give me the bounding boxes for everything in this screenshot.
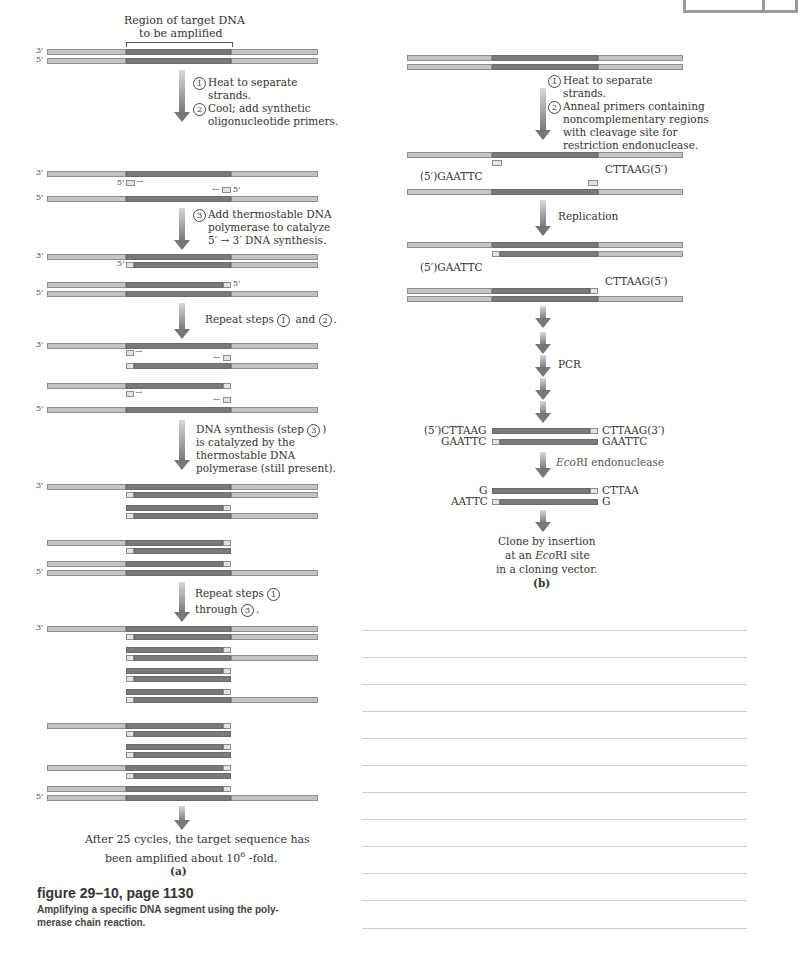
dna-target-region xyxy=(492,428,590,434)
enzyme-label: EcoRI endonuclease xyxy=(556,456,664,469)
dna-strand xyxy=(407,189,492,195)
dna-target-region xyxy=(126,196,231,202)
rep-left-label: (5′)GAATTC xyxy=(420,261,482,274)
result-text2: been amplified about 106 -fold. xyxy=(105,848,277,865)
dna-strand xyxy=(47,171,126,177)
step3-text: 3Add thermostable DNA xyxy=(193,208,332,222)
end-label-3prime: 3' xyxy=(36,340,43,349)
note-line[interactable] xyxy=(362,738,747,739)
dna-target-region xyxy=(134,634,231,640)
primer xyxy=(223,505,231,511)
step2-text: 2Cool; add synthetic xyxy=(193,102,311,116)
note-line[interactable] xyxy=(362,684,747,685)
step1-text: 1Heat to separate xyxy=(193,76,297,90)
note-line[interactable] xyxy=(362,765,747,766)
note-line[interactable] xyxy=(362,657,747,658)
dna-target-region xyxy=(126,570,231,576)
target-region-bracket xyxy=(126,42,233,47)
right-arrow-icon: → xyxy=(136,176,144,186)
left-arrow-icon: ← xyxy=(212,184,220,194)
b-step2-text2: noncomplementary regions xyxy=(563,113,709,126)
dna-strand xyxy=(598,152,683,158)
dna-strand xyxy=(598,55,683,61)
dna-target-region xyxy=(126,626,231,632)
dna-target-region xyxy=(134,697,231,703)
dna-strand xyxy=(47,49,126,55)
step2-text2: oligonucleotide primers. xyxy=(208,115,338,128)
note-line[interactable] xyxy=(362,928,747,929)
down-arrow-icon xyxy=(535,378,551,400)
result-line2: been amplified about 10 xyxy=(105,852,240,865)
dna-target-region xyxy=(492,296,598,302)
end-label-3prime: 3' xyxy=(36,46,43,55)
dna-target-region xyxy=(126,647,223,653)
down-arrow-icon xyxy=(174,303,190,339)
down-arrow-icon xyxy=(174,582,190,622)
end-label-5prime: 5' xyxy=(36,792,43,801)
down-arrow-icon xyxy=(174,208,190,250)
primer-right-label: CTTAAG(5′) xyxy=(605,163,667,176)
primer xyxy=(126,655,134,661)
dna-strand xyxy=(47,723,126,729)
dna-strand xyxy=(407,55,492,61)
dna-strand xyxy=(231,58,318,64)
down-arrow-icon xyxy=(535,306,551,328)
dna-strand xyxy=(47,282,126,288)
primer xyxy=(223,723,231,729)
dna-target-region xyxy=(126,58,231,64)
primer xyxy=(126,676,134,682)
dna-strand xyxy=(231,484,318,490)
dna-target-region xyxy=(134,262,231,268)
primer xyxy=(223,647,231,653)
note-line[interactable] xyxy=(362,630,747,631)
down-arrow-icon xyxy=(535,88,551,140)
note-line[interactable] xyxy=(362,792,747,793)
dna-strand xyxy=(231,407,318,413)
dna-target-region xyxy=(492,152,598,158)
dna-target-region xyxy=(126,689,223,695)
dna-target-region xyxy=(134,676,231,682)
note-line[interactable] xyxy=(362,711,747,712)
right-arrow-icon: → xyxy=(135,346,143,356)
step3-text2: polymerase to catalyze xyxy=(208,221,330,234)
dna-strand xyxy=(47,196,126,202)
down-arrow-icon xyxy=(174,806,190,830)
figure-caption-line1: Amplifying a specific DNA segment using … xyxy=(37,903,279,916)
repeat-steps-1-3: Repeat steps 1 xyxy=(195,587,282,601)
end-label-5prime: 5' xyxy=(36,193,43,202)
rep-right-label: CTTAAG(5′) xyxy=(605,275,667,288)
step2-line1: Cool; add synthetic xyxy=(208,102,311,114)
header-rule xyxy=(686,10,776,13)
dna-strand xyxy=(47,570,126,576)
dna-target-region xyxy=(126,561,223,567)
repeat-text: Repeat steps xyxy=(205,313,274,325)
b-step1-text: 1Heat to separate xyxy=(548,74,652,88)
step-number-1: 1 xyxy=(548,75,561,88)
dna-strand xyxy=(231,492,318,498)
dna-target-region xyxy=(134,752,231,758)
clone-site: RI site xyxy=(555,549,590,561)
primer xyxy=(126,262,134,268)
dna-strand xyxy=(598,296,683,302)
primer xyxy=(126,752,134,758)
end-label-5prime: 5' xyxy=(36,404,43,413)
primer xyxy=(223,383,231,389)
dna-strand xyxy=(47,795,126,801)
dna-strand xyxy=(231,254,318,260)
dna-strand xyxy=(407,288,492,294)
note-line[interactable] xyxy=(362,873,747,874)
primer xyxy=(492,439,500,445)
product-bottom-left: GAATTC xyxy=(441,435,486,448)
dna-target-region xyxy=(126,668,223,674)
note-line[interactable] xyxy=(362,846,747,847)
note-line[interactable] xyxy=(362,819,747,820)
dna-target-region xyxy=(492,189,598,195)
primer-5prime-label: 5' xyxy=(117,178,124,187)
step3-line1: Add thermostable DNA xyxy=(208,208,332,220)
end-label-5prime: 5' xyxy=(233,279,240,288)
clone-italic: Eco xyxy=(535,549,555,561)
primer xyxy=(223,355,231,361)
dna-target-region xyxy=(126,540,223,546)
note-line[interactable] xyxy=(362,900,747,901)
primer xyxy=(223,668,231,674)
